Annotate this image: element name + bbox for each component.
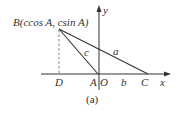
y-axis-arrow-icon <box>97 5 102 12</box>
x-axis-arrow-icon <box>164 72 171 77</box>
figure-caption: (a) <box>86 94 98 105</box>
point-C-label: C <box>141 77 148 88</box>
side-a-label: a <box>113 46 119 57</box>
point-B-label: B(ccos A, csin A) <box>13 17 88 28</box>
side-a-BC <box>59 29 148 74</box>
point-A-label: A <box>90 77 97 88</box>
point-D-label: D <box>55 77 63 88</box>
y-axis-label: y <box>103 5 108 16</box>
point-O-label: O <box>100 77 108 88</box>
x-axis-label: x <box>160 77 165 88</box>
side-c-BA <box>59 29 98 74</box>
side-c-label: c <box>84 47 89 58</box>
side-b-label: b <box>121 77 127 88</box>
